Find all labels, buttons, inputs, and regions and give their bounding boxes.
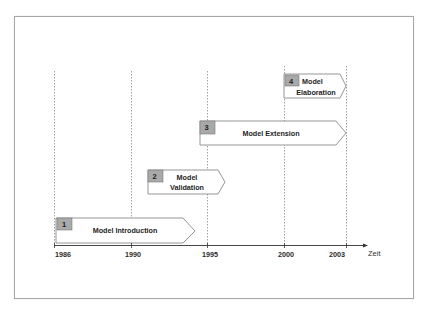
- phase-2-label-line1: Model: [177, 173, 198, 182]
- year-labels: 1986 1990 1995 2000 2003: [55, 250, 345, 259]
- phase-2-arrow: 2 Model Validation: [148, 170, 225, 194]
- year-label-1990: 1990: [125, 250, 141, 259]
- phase-2-number: 2: [153, 172, 157, 181]
- year-label-2003: 2003: [329, 250, 345, 259]
- phase-1-label: Model Introduction: [93, 226, 158, 235]
- phase-3-label: Model Extension: [242, 129, 299, 138]
- year-label-2000: 2000: [278, 250, 294, 259]
- year-label-1986: 1986: [55, 250, 71, 259]
- year-label-1995: 1995: [202, 250, 218, 259]
- phase-2-label-line2: Validation: [170, 183, 204, 192]
- timeline-diagram: 1 Model Introduction 2 Model Validation …: [0, 0, 427, 311]
- axis-label-zeit: Zeit: [368, 249, 381, 258]
- phase-4-label-line2: Elaboration: [296, 88, 336, 97]
- phase-3-number: 3: [205, 123, 209, 132]
- phase-4-label-line1: Model: [302, 77, 323, 86]
- axis-arrowhead-icon: [363, 244, 368, 248]
- phase-1-number: 1: [62, 220, 66, 229]
- phase-3-arrow: 3 Model Extension: [200, 121, 346, 145]
- phase-4-arrow: 4 Model Elaboration: [284, 74, 346, 98]
- phase-1-arrow: 1 Model Introduction: [56, 218, 195, 243]
